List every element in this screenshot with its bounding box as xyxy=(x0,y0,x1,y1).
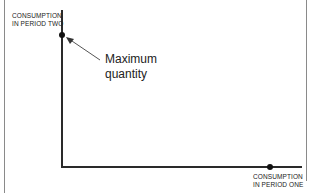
x-axis-label: CONSUMPTION IN PERIOD ONE xyxy=(253,173,303,189)
y-axis-label-line2: IN PERIOD TWO xyxy=(12,20,63,28)
max-period-two-point xyxy=(59,32,65,38)
annotation-line2: quantity xyxy=(105,67,157,82)
annotation-line1: Maximum xyxy=(105,52,157,67)
x-axis-label-line2: IN PERIOD ONE xyxy=(253,181,303,189)
maximum-quantity-annotation: Maximum quantity xyxy=(105,52,157,82)
y-axis-label-line1: CONSUMPTION xyxy=(12,12,63,20)
arrow-icon xyxy=(66,37,100,60)
x-axis-label-line1: CONSUMPTION xyxy=(253,173,303,181)
diagram-canvas xyxy=(0,0,311,194)
max-period-one-point xyxy=(267,164,273,170)
y-axis-label: CONSUMPTION IN PERIOD TWO xyxy=(12,12,63,28)
